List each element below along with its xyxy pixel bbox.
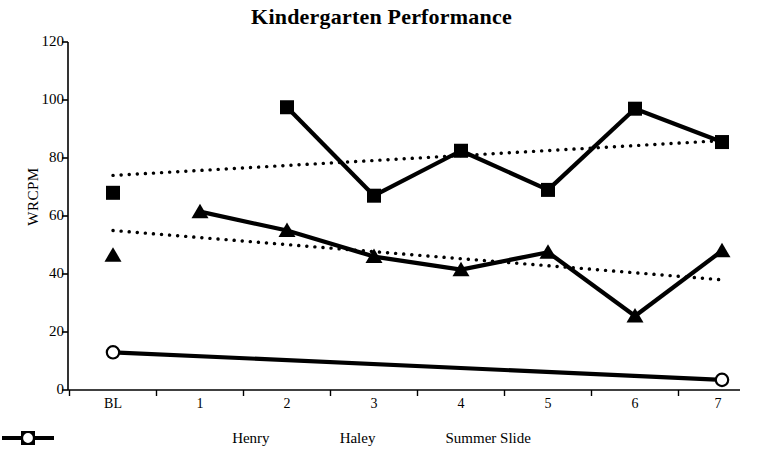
chart-container: Kindergarten Performance WRCPM 120 100 8… <box>0 0 763 455</box>
legend-label-haley: Haley <box>340 430 376 447</box>
legend-item-haley: Haley <box>340 430 376 447</box>
plot-area <box>0 0 763 455</box>
legend-label-summer-slide: Summer Slide <box>445 430 530 447</box>
chart-legend: Henry Haley Summer Slide <box>0 430 763 447</box>
legend-item-summer-slide: Summer Slide <box>445 430 530 447</box>
legend-item-henry: Henry <box>232 430 270 447</box>
circle-marker-icon <box>0 430 56 446</box>
legend-label-henry: Henry <box>232 430 270 447</box>
